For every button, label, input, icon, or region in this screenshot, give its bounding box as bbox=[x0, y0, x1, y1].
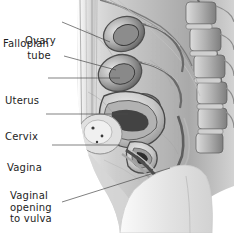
label-vagina: Vagina bbox=[7, 139, 42, 197]
label-fallopian-tube-line-2: tube bbox=[3, 50, 75, 62]
label-vaginal-opening-line-1: Vaginal bbox=[10, 190, 76, 202]
anatomy-figure: Ovary Fallopian tube Uterus Cervix Vagin… bbox=[0, 0, 234, 233]
label-layer: Ovary Fallopian tube Uterus Cervix Vagin… bbox=[0, 0, 234, 233]
label-vaginal-opening-line-3: to vulva bbox=[10, 213, 76, 225]
label-vagina-line-1: Vagina bbox=[7, 162, 42, 174]
label-fallopian-tube: Fallopian tube bbox=[3, 38, 75, 61]
label-fallopian-tube-line-1: Fallopian bbox=[3, 38, 75, 50]
label-uterus-line-1: Uterus bbox=[5, 95, 39, 107]
label-vaginal-opening-to-vulva: Vaginal opening to vulva bbox=[10, 190, 76, 225]
label-vaginal-opening-line-2: opening bbox=[10, 202, 76, 214]
